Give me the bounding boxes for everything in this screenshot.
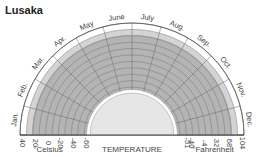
month-label: July	[140, 12, 155, 23]
radial-temperature-chart: Jan.Feb.Mar.Apr.MayJuneJulyAug.Sep.Oct.N…	[0, 0, 266, 157]
month-label: Jan.	[9, 112, 20, 127]
temperature-axis-label: TEMPERATURE	[102, 145, 162, 154]
celsius-axis-label: °Celsius	[33, 145, 62, 154]
celsius-tick: -60	[82, 138, 91, 149]
celsius-tick: 40	[18, 139, 27, 147]
month-label: June	[108, 12, 125, 23]
celsius-tick: -40	[69, 138, 78, 149]
month-label: Dec.	[244, 111, 255, 127]
fahrenheit-axis-label: °Fahrenheit	[192, 145, 234, 154]
fahrenheit-tick: 104	[238, 137, 247, 150]
